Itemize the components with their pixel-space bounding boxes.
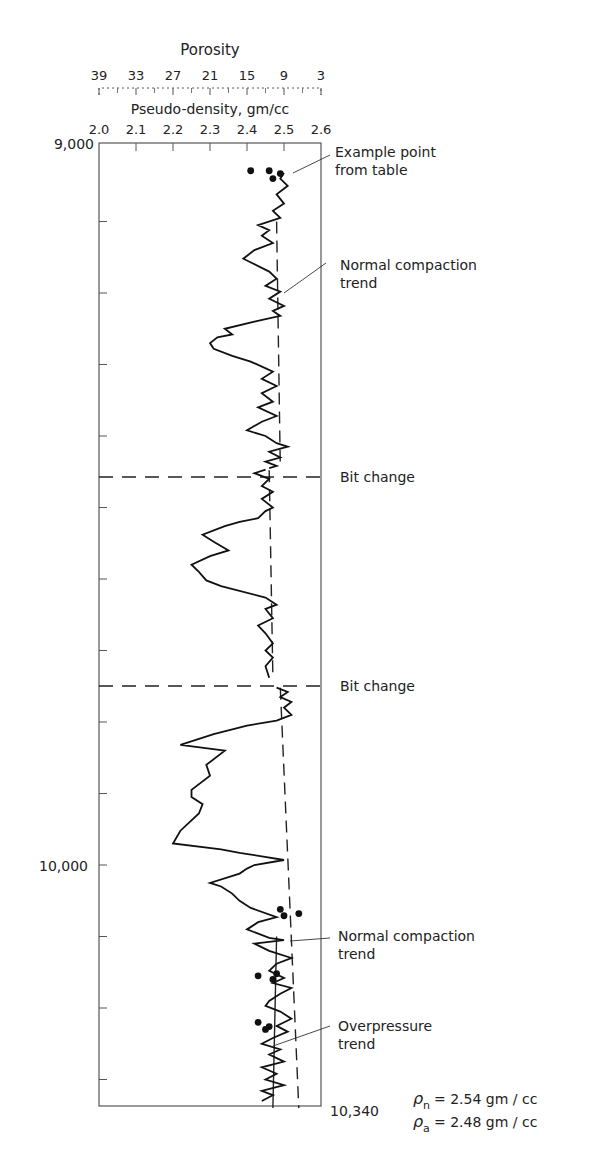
porosity-tick-label: 3 bbox=[317, 68, 325, 83]
annotation-bit-change-1: Bit change bbox=[340, 469, 415, 485]
porosity-tick-marks bbox=[99, 88, 321, 95]
svg-text:from table: from table bbox=[335, 162, 408, 178]
example-point-dot bbox=[295, 910, 302, 917]
annotation-normal-compaction-upper: Normal compaction trend bbox=[340, 257, 477, 291]
porosity-tick-label: 9 bbox=[280, 68, 288, 83]
example-point-dot bbox=[277, 170, 284, 177]
density-depth-chart: Porosity 393327211593 Pseudo-density, gm… bbox=[0, 0, 607, 1167]
porosity-axis: Porosity 393327211593 bbox=[91, 41, 325, 95]
example-point-dot bbox=[273, 970, 280, 977]
annotation-bit-change-2: Bit change bbox=[340, 678, 415, 694]
normal-compaction-trend-lower-line bbox=[280, 688, 299, 1108]
density-axis: Pseudo-density, gm/cc 2.02.12.22.32.42.5… bbox=[89, 101, 332, 137]
annotation-normal-compaction-lower: Normal compaction trend bbox=[338, 928, 475, 962]
density-axis-title: Pseudo-density, gm/cc bbox=[131, 101, 290, 117]
density-tick-label: 2.2 bbox=[163, 122, 184, 137]
depth-label-10340: 10,340 bbox=[330, 1103, 379, 1119]
density-tick-label: 2.6 bbox=[311, 122, 332, 137]
svg-text:Overpressure: Overpressure bbox=[338, 1018, 432, 1034]
density-tick-labels: 2.02.12.22.32.42.52.6 bbox=[89, 122, 332, 137]
density-tick-label: 2.5 bbox=[274, 122, 295, 137]
rho-normal-label: ρ n = 2.54 gm / cc bbox=[413, 1089, 537, 1112]
density-tick-label: 2.3 bbox=[200, 122, 221, 137]
svg-text:a: a bbox=[423, 1122, 430, 1135]
svg-text:= 2.48 gm / cc: = 2.48 gm / cc bbox=[434, 1114, 537, 1130]
example-point-dot bbox=[255, 972, 262, 979]
depth-label-10000: 10,000 bbox=[39, 858, 88, 874]
porosity-tick-label: 15 bbox=[239, 68, 256, 83]
svg-text:= 2.54 gm / cc: = 2.54 gm / cc bbox=[434, 1091, 537, 1107]
example-point-dot bbox=[277, 906, 284, 913]
svg-text:trend: trend bbox=[338, 946, 375, 962]
porosity-axis-title: Porosity bbox=[180, 41, 240, 59]
density-log-curve bbox=[173, 173, 291, 1101]
svg-text:n: n bbox=[423, 1099, 430, 1112]
example-point-dot bbox=[255, 1019, 262, 1026]
depth-label-9000: 9,000 bbox=[54, 136, 94, 152]
example-point-dot bbox=[266, 167, 273, 174]
example-point-dot bbox=[281, 912, 288, 919]
porosity-tick-label: 39 bbox=[91, 68, 108, 83]
density-tick-label: 2.1 bbox=[126, 122, 147, 137]
example-point-dot bbox=[270, 175, 277, 182]
normal-compaction-trend-upper-line bbox=[277, 222, 281, 469]
annotation-example-point: Example point from table bbox=[335, 144, 436, 178]
frame-tick-marks bbox=[99, 143, 284, 1080]
example-point-dot bbox=[266, 1023, 273, 1030]
density-log-segment bbox=[210, 173, 288, 468]
porosity-tick-labels: 393327211593 bbox=[91, 68, 325, 83]
svg-text:ρ: ρ bbox=[413, 1089, 423, 1108]
rho-actual-label: ρ a = 2.48 gm / cc bbox=[413, 1112, 537, 1135]
porosity-tick-label: 21 bbox=[202, 68, 219, 83]
example-points bbox=[247, 167, 302, 1033]
annotation-overpressure: Overpressure trend bbox=[338, 1018, 432, 1052]
density-log-segment bbox=[173, 688, 291, 1101]
example-point-dot bbox=[247, 167, 254, 174]
svg-text:trend: trend bbox=[340, 275, 377, 291]
density-tick-label: 2.0 bbox=[89, 122, 110, 137]
porosity-tick-label: 27 bbox=[165, 68, 182, 83]
svg-text:Example point: Example point bbox=[335, 144, 436, 160]
density-tick-label: 2.4 bbox=[237, 122, 258, 137]
svg-text:Normal compaction: Normal compaction bbox=[338, 928, 475, 944]
density-log-segment bbox=[192, 470, 277, 678]
svg-text:Normal compaction: Normal compaction bbox=[340, 257, 477, 273]
porosity-tick-label: 33 bbox=[128, 68, 145, 83]
svg-text:ρ: ρ bbox=[413, 1112, 423, 1131]
plot-frame bbox=[99, 143, 321, 1106]
svg-text:trend: trend bbox=[338, 1036, 375, 1052]
example-point-dot bbox=[270, 976, 277, 983]
